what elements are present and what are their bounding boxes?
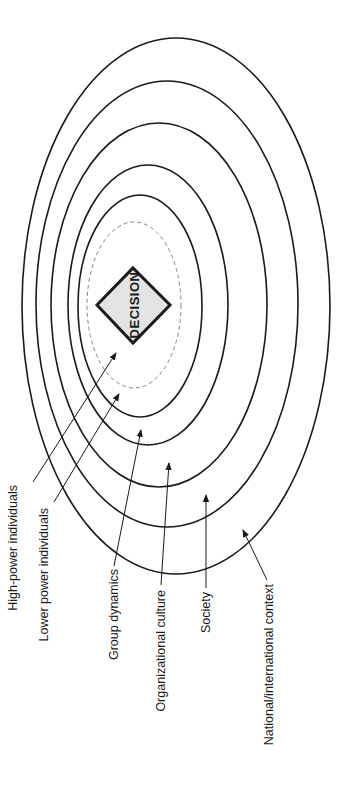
leader-group-dynamics xyxy=(114,430,141,566)
decision-diamond: DECISION xyxy=(97,268,170,343)
nested-influence-diagram: DECISION High-power individuals Lower po… xyxy=(0,0,350,806)
leader-national-international xyxy=(243,530,267,580)
label-national-international-context: National/international context xyxy=(262,583,276,745)
decision-label: DECISION xyxy=(127,272,142,339)
label-group-dynamics: Group dynamics xyxy=(107,569,121,660)
label-lower-power-individuals: Lower power individuals xyxy=(37,508,51,641)
leader-organizational-culture xyxy=(161,463,169,585)
label-high-power-individuals: High-power individuals xyxy=(6,485,20,611)
leader-lower-power xyxy=(54,394,119,502)
label-organizational-culture: Organizational culture xyxy=(154,590,168,712)
label-society: Society xyxy=(199,591,213,633)
